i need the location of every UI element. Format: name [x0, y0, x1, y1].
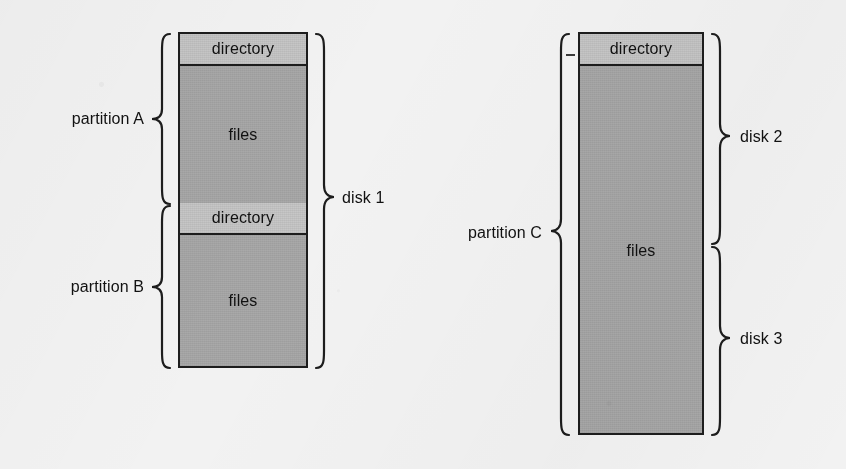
partition-b-label-text: partition B — [71, 278, 144, 295]
partition-c-label-text: partition C — [468, 224, 542, 241]
partition-a-directory-label: directory — [212, 40, 274, 58]
partition-a-files-label: files — [229, 126, 258, 144]
partition-b-brace — [150, 205, 172, 369]
disk-1-box: directory files directory files — [178, 32, 308, 368]
partition-c-directory-band: directory — [580, 34, 702, 66]
partition-b-files-label: files — [229, 292, 258, 310]
disk-1-label: disk 1 — [342, 189, 384, 207]
partition-b-files-band: files — [180, 235, 306, 366]
disk-1-label-text: disk 1 — [342, 189, 384, 206]
partition-c-label: partition C — [434, 224, 542, 242]
partition-a-directory-band: directory — [180, 34, 306, 66]
partition-b-directory-band: directory — [180, 203, 306, 235]
disk-3-label: disk 3 — [740, 330, 782, 348]
partition-c-files-label: files — [627, 242, 656, 260]
partition-a-label-text: partition A — [72, 110, 144, 127]
partition-a-files-band: files — [180, 66, 306, 203]
partition-c-directory-label: directory — [610, 40, 672, 58]
diagram-canvas: directory files directory files partitio… — [0, 0, 846, 469]
partition-b-label: partition B — [36, 278, 144, 296]
disk-2-brace — [710, 33, 732, 245]
disk-2-label-text: disk 2 — [740, 128, 782, 145]
partition-b-directory-label: directory — [212, 209, 274, 227]
partition-c-files-band: files — [580, 66, 702, 433]
partition-a-brace — [150, 33, 172, 205]
disk-1-brace — [314, 33, 336, 369]
disk-3-label-text: disk 3 — [740, 330, 782, 347]
partition-c-brace — [549, 33, 571, 436]
disk-3-brace — [710, 246, 732, 436]
disk-2-label: disk 2 — [740, 128, 782, 146]
partition-a-label: partition A — [36, 110, 144, 128]
partition-c-box: directory files — [578, 32, 704, 435]
directory-c-tick-mark — [566, 54, 575, 56]
